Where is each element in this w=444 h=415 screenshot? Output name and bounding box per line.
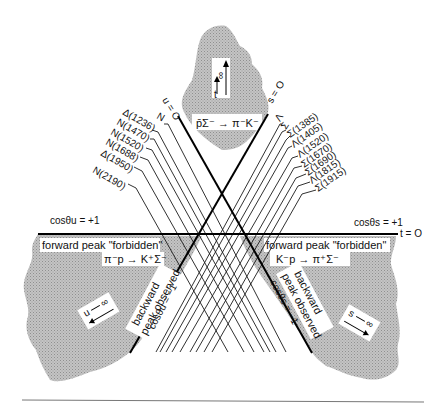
s-resonance-labels: Λ Σ Σ(1385) Λ(1405) Λ(1520) Σ(1670) Σ(16… (272, 110, 348, 193)
left-reaction-label: π⁻p → K⁺Σ⁻ (104, 253, 167, 265)
mandelstam-diagram: ∞ t p̄Σ⁻ → π⁻K⁻ u = O s = O t = O cosθu … (0, 0, 444, 415)
s-zero-label: s = O (264, 79, 286, 106)
svg-text:N: N (155, 110, 167, 123)
right-reaction-label: K⁻p → π⁺Σ⁻ (276, 253, 339, 265)
left-forward-label: forward peak "forbidden" (42, 239, 162, 251)
bottom-rule (22, 400, 424, 402)
top-reaction-label: p̄Σ⁻ → π⁻K⁻ (196, 117, 259, 129)
svg-text:t: t (214, 89, 217, 100)
u-resonance-labels: N Δ(1236) N(1470) N(1520) N(1688) Δ(1950… (91, 106, 167, 192)
cos-u-plus-label: cosθu = +1 (50, 215, 100, 226)
cos-s-plus-label: cosθs = +1 (354, 217, 403, 228)
t-zero-label: t = O (400, 228, 422, 239)
right-forward-label: forward peak "forbidden" (266, 239, 386, 251)
